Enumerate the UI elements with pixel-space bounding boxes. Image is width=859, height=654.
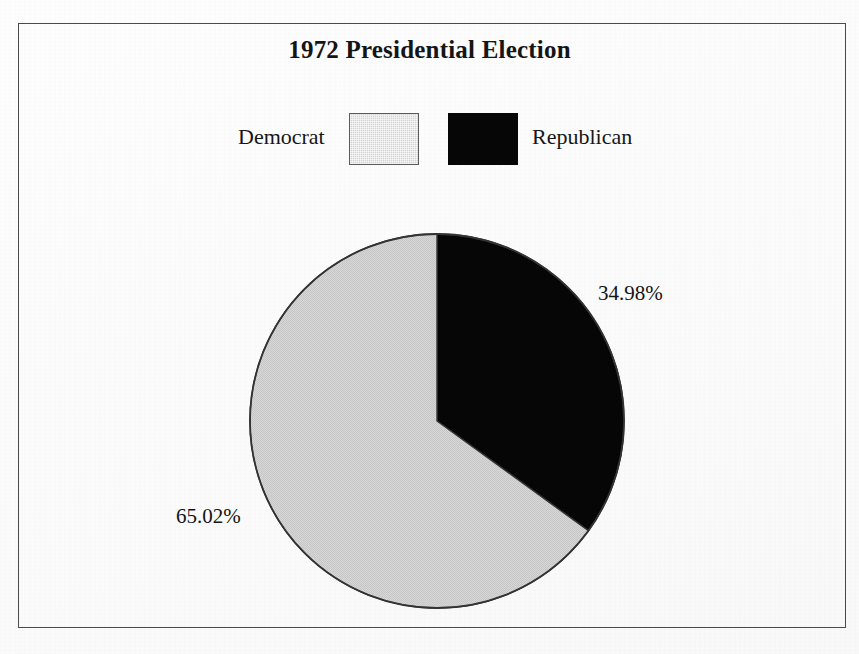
- slice-value-label-republican: 34.98%: [598, 281, 663, 306]
- pie-chart-svg: [0, 0, 859, 654]
- pie-chart-area: 34.98% 65.02%: [0, 0, 859, 654]
- scanned-chart-page: 1972 Presidential Election Democrat Repu…: [0, 0, 859, 654]
- pie-slices: [250, 234, 624, 608]
- slice-value-label-democrat: 65.02%: [176, 504, 241, 529]
